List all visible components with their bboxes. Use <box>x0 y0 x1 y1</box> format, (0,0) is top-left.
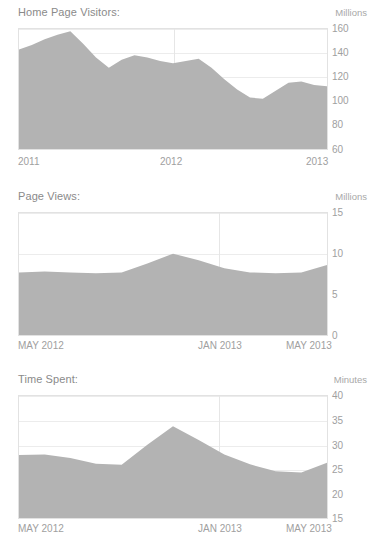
chart-page-views: Page Views: Millions 15 10 5 0 MAY 2012 … <box>0 188 371 370</box>
chart-home-page-visitors: Home Page Visitors: Millions 160 140 120… <box>0 4 371 184</box>
x-axis-ticks: 2011 2012 2013 <box>0 156 371 170</box>
chart-unit-label: Minutes <box>334 374 367 385</box>
x-axis-tick: MAY 2012 <box>18 523 64 534</box>
y-axis-tick: 20 <box>332 490 343 500</box>
chart-unit-label: Millions <box>335 191 367 202</box>
y-axis-tick: 30 <box>332 441 343 451</box>
charts-container: Home Page Visitors: Millions 160 140 120… <box>0 0 371 556</box>
x-axis-tick: 2013 <box>306 156 328 167</box>
y-axis-tick: 25 <box>332 465 343 475</box>
y-axis-tick: 60 <box>332 145 343 155</box>
chart-title: Page Views: <box>18 190 80 202</box>
y-axis-tick: 10 <box>332 249 343 259</box>
area-series <box>19 213 327 335</box>
chart-title: Time Spent: <box>18 373 78 385</box>
plot-area <box>18 212 328 336</box>
x-axis-tick: MAY 2013 <box>286 523 332 534</box>
y-axis-tick: 40 <box>332 391 343 401</box>
x-axis-tick: JAN 2013 <box>198 523 242 534</box>
x-axis-ticks: MAY 2012 JAN 2013 MAY 2013 <box>0 340 371 354</box>
x-axis-tick: 2012 <box>160 156 182 167</box>
x-axis-ticks: MAY 2012 JAN 2013 MAY 2013 <box>0 523 371 537</box>
y-axis-tick: 160 <box>332 24 349 34</box>
y-axis-tick: 100 <box>332 96 349 106</box>
plot-area <box>18 28 328 150</box>
y-axis-tick: 80 <box>332 120 343 130</box>
chart-time-spent: Time Spent: Minutes 40 35 30 25 20 15 MA… <box>0 371 371 556</box>
area-series <box>19 396 327 518</box>
x-axis-tick: MAY 2013 <box>286 340 332 351</box>
y-axis-tick: 15 <box>332 208 343 218</box>
x-axis-tick: MAY 2012 <box>18 340 64 351</box>
x-axis-tick: JAN 2013 <box>198 340 242 351</box>
y-axis-tick: 35 <box>332 416 343 426</box>
chart-title: Home Page Visitors: <box>18 6 120 18</box>
x-axis-tick: 2011 <box>18 156 40 167</box>
plot-area <box>18 395 328 519</box>
y-axis-tick: 5 <box>332 290 338 300</box>
y-axis-tick: 140 <box>332 48 349 58</box>
y-axis-tick: 120 <box>332 72 349 82</box>
chart-unit-label: Millions <box>335 7 367 18</box>
area-series <box>19 29 327 149</box>
